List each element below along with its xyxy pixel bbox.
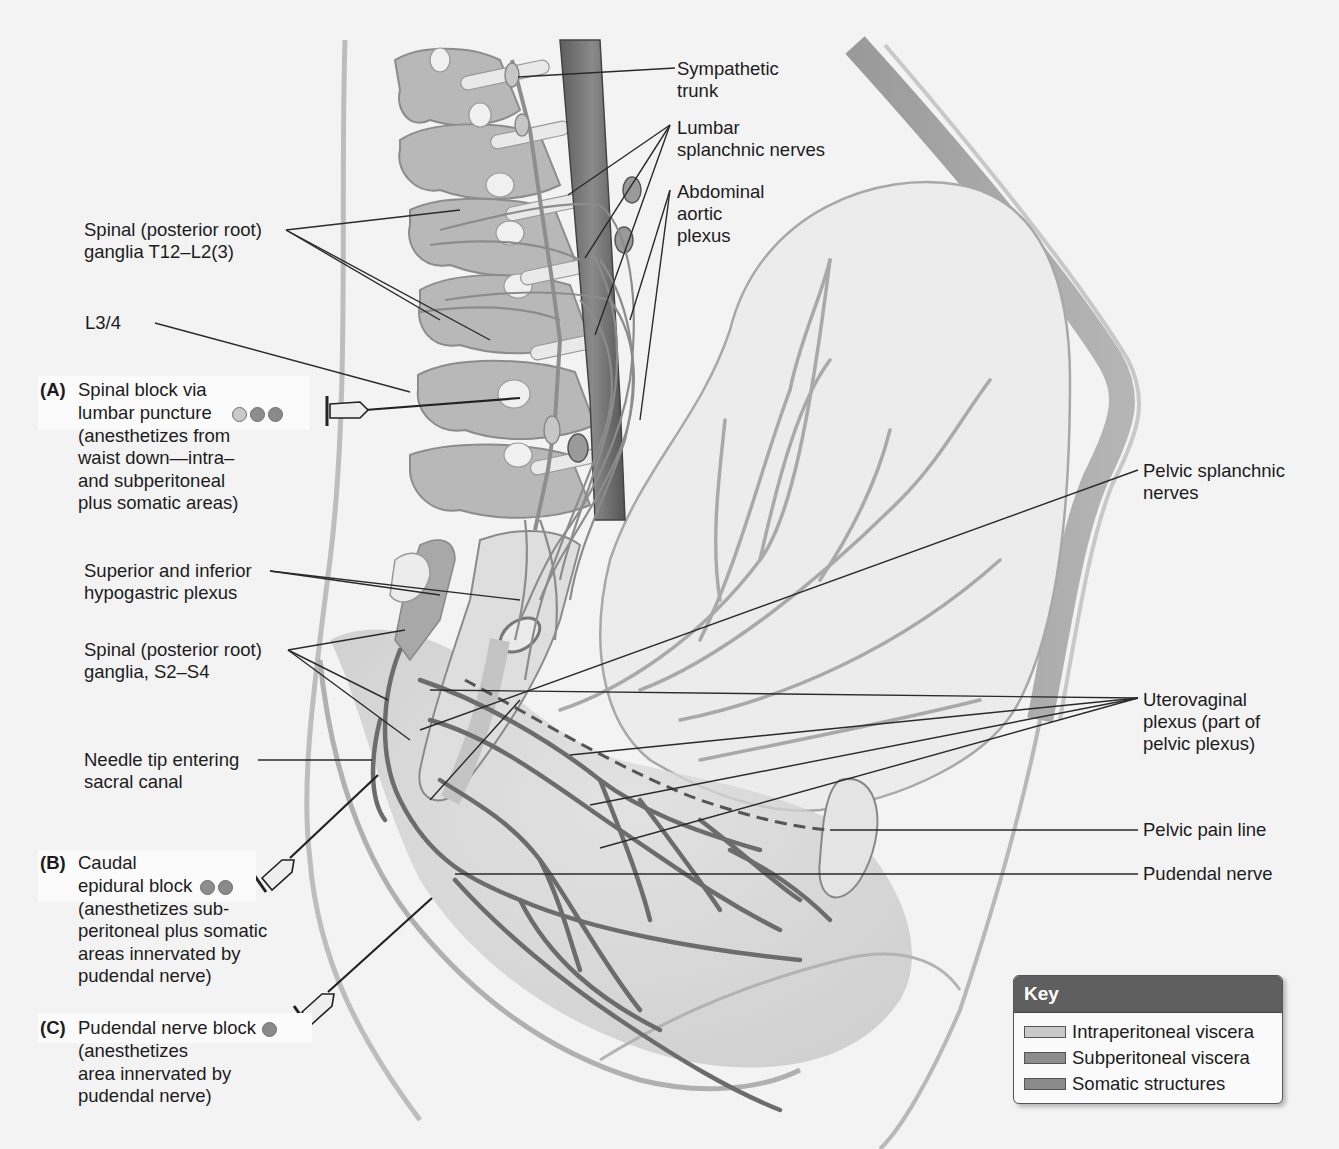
key-item-intraperitoneal: Intraperitoneal viscera [1014,1019,1282,1045]
key-title: Key [1014,976,1282,1013]
label-abdominal-aortic-plexus: Abdominal aortic plexus [677,181,764,247]
key-item-somatic: Somatic structures [1014,1071,1282,1097]
dot-subperitoneal [200,880,215,895]
label-sympathetic-trunk: Sympathetic trunk [677,58,779,102]
label-pelvic-pain-line: Pelvic pain line [1143,819,1266,841]
block-a-dots [232,402,286,425]
label-hypogastric-plexus: Superior and inferior hypogastric plexus [84,560,252,604]
dot-intraperitoneal [232,407,247,422]
block-b-dots [200,875,236,898]
key-item-subperitoneal: Subperitoneal viscera [1014,1045,1282,1071]
dot-somatic [262,1022,277,1037]
block-c-dots [262,1018,280,1041]
label-l3-4: L3/4 [85,312,121,334]
swatch-subperitoneal [1024,1052,1066,1064]
label-pudendal-nerve: Pudendal nerve [1143,863,1273,885]
needle-pudendal [294,898,432,1026]
dot-subperitoneal [250,407,265,422]
dot-somatic [218,880,233,895]
label-spinal-ganglia-s2-s4: Spinal (posterior root) ganglia, S2–S4 [84,639,262,683]
lumbar-vertebrae [395,49,595,518]
dot-somatic [268,407,283,422]
label-lumbar-splanchnic-nerves: Lumbar splanchnic nerves [677,117,825,161]
label-pelvic-splanchnic-nerves: Pelvic splanchnic nerves [1143,460,1285,504]
label-needle-tip: Needle tip entering sacral canal [84,749,239,793]
swatch-intraperitoneal [1024,1026,1066,1038]
swatch-somatic [1024,1078,1066,1090]
label-uterovaginal-plexus: Uterovaginal plexus (part of pelvic plex… [1143,689,1260,755]
label-spinal-ganglia-t12-l2: Spinal (posterior root) ganglia T12–L2(3… [84,219,262,263]
legend-key: Key Intraperitoneal viscera Subperitonea… [1013,975,1283,1104]
uterus [600,182,1070,811]
